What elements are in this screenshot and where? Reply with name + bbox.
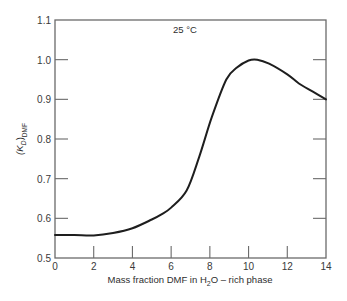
data-curve bbox=[55, 59, 326, 235]
y-tick-label: 1.1 bbox=[37, 15, 51, 26]
y-tick-label: 0.6 bbox=[37, 213, 51, 224]
x-tick-label: 0 bbox=[52, 261, 58, 272]
y-tick-label: 0.5 bbox=[37, 253, 51, 264]
x-tick-label: 14 bbox=[320, 261, 332, 272]
y-tick-label: 0.7 bbox=[37, 174, 51, 185]
x-tick-label: 10 bbox=[243, 261, 255, 272]
axis-ticks bbox=[55, 60, 326, 258]
x-tick-label: 8 bbox=[207, 261, 213, 272]
x-tick-label: 12 bbox=[282, 261, 294, 272]
axis-tick-labels: 024681012140.50.60.70.80.91.01.1 bbox=[37, 15, 332, 272]
x-tick-label: 6 bbox=[168, 261, 174, 272]
x-tick-label: 4 bbox=[130, 261, 136, 272]
y-tick-label: 1.0 bbox=[37, 55, 51, 66]
x-axis-label: Mass fraction DMF in H2O – rich phase bbox=[108, 274, 273, 287]
y-tick-label: 0.9 bbox=[37, 94, 51, 105]
x-tick-label: 2 bbox=[91, 261, 97, 272]
temperature-annotation: 25 °C bbox=[173, 24, 197, 35]
y-axis-label: (KD)DMF bbox=[14, 123, 28, 155]
y-tick-label: 0.8 bbox=[37, 134, 51, 145]
chart: 024681012140.50.60.70.80.91.01.1 25 °C M… bbox=[0, 0, 347, 301]
y-label-sub2: DMF bbox=[21, 123, 28, 137]
plot-frame bbox=[55, 20, 326, 258]
x-label-post: O – rich phase bbox=[211, 274, 273, 285]
x-label-pre: Mass fraction DMF in H bbox=[108, 274, 207, 285]
